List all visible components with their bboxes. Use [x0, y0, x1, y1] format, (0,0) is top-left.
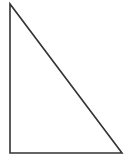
canvas-background — [0, 0, 130, 159]
figure-canvas: top-left-apex bottom-left-right-angle bo… — [0, 0, 130, 159]
triangle-svg — [0, 0, 130, 159]
